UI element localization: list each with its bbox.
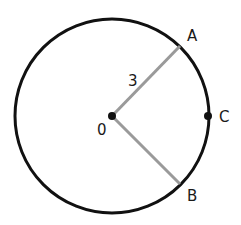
label-radius: 3 <box>128 72 138 90</box>
center-point <box>108 112 116 120</box>
label-a: A <box>187 27 198 45</box>
label-center: 0 <box>97 121 107 139</box>
point-c <box>204 112 212 120</box>
label-b: B <box>187 187 197 205</box>
circle-diagram: A B C 0 3 <box>0 0 241 225</box>
label-c: C <box>219 108 229 126</box>
radius-oa <box>112 46 180 116</box>
radius-ob <box>112 116 180 184</box>
